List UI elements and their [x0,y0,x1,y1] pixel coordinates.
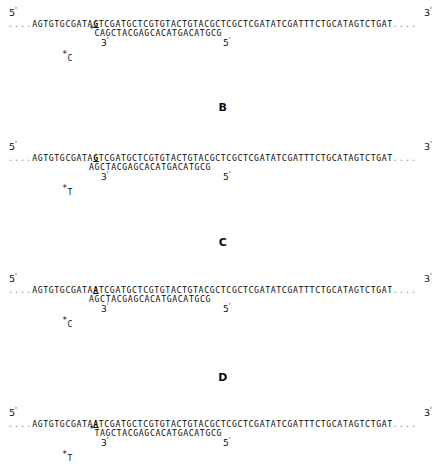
top-strand-sequence: ....AGTGTGCGATAGTCGATGCTCGTGTACTGTACGCTC… [8,153,417,163]
bottom-strand-three-prime-label: 3' [101,302,109,314]
labelled-free-nucleotide: *C [62,54,72,63]
bottom-strand-five-prime-label: 5' [223,170,231,182]
trailing-dots: .... [393,153,417,163]
prime-mark: ' [229,302,231,310]
bottom-strand-bases: CAGCTACGAGCACATGACATGCG [94,28,222,38]
bottom-strand-three-prime-label: 3' [101,170,109,182]
prime-mark: ' [15,272,17,280]
leading-dots: .... [8,285,32,295]
prime-mark: ' [430,140,432,148]
prime-mark: ' [229,170,231,178]
top-strand-sequence: ....AGTGTGCGATAATCGATGCTCGTGTACTGTACGCTC… [8,285,417,295]
trailing-dots: .... [393,19,417,29]
prime-mark: ' [430,6,432,14]
prime-mark: ' [15,406,17,414]
bottom-strand-five-prime-label: 5' [223,302,231,314]
free-nucleotide-base: C [67,320,72,329]
leading-dots: .... [8,19,32,29]
top-strand-prefix: AGTGTGCGATA [32,153,93,163]
five-prime-label-left: 5' [9,140,17,152]
free-nucleotide-base: C [67,54,72,63]
five-prime-label-left: 5' [9,272,17,284]
bottom-strand-bases: TAGCTACGAGCACATGACATGCG [94,428,222,438]
trailing-dots: .... [393,285,417,295]
labelled-free-nucleotide: *T [62,188,72,197]
panel-letter-c: C [0,236,446,249]
figure-root: { "figure": { "panel_letters": ["B", "C"… [0,0,446,472]
prime-mark: ' [107,36,109,44]
five-prime-label-left: 5' [9,406,17,418]
bottom-strand-sequence: *TAGCTACGAGCACATGACATGCG [89,428,222,438]
three-prime-label-right: 3' [424,406,432,418]
three-prime-label-right: 3' [424,6,432,18]
panel-letter-d: D [0,371,446,384]
bottom-strand-three-prime-label: 3' [101,36,109,48]
labelled-free-nucleotide: *T [62,454,72,463]
prime-mark: ' [107,302,109,310]
trailing-dots: .... [393,419,417,429]
bottom-strand-five-prime-label: 5' [223,436,231,448]
free-nucleotide-base: T [67,188,72,197]
top-strand-prefix: AGTGTGCGATA [32,19,93,29]
bottom-strand-five-prime-label: 5' [223,36,231,48]
prime-mark: ' [229,36,231,44]
bottom-strand-three-prime-label: 3' [101,436,109,448]
prime-mark: ' [229,436,231,444]
free-nucleotide-base: T [67,454,72,463]
prime-mark: ' [430,406,432,414]
leading-dots: .... [8,419,32,429]
top-strand-prefix: AGTGTGCGATA [32,285,93,295]
prime-mark: ' [430,272,432,280]
five-prime-label-left: 5' [9,6,17,18]
prime-mark: ' [107,436,109,444]
three-prime-label-right: 3' [424,272,432,284]
leading-dots: .... [8,153,32,163]
prime-mark: ' [15,140,17,148]
three-prime-label-right: 3' [424,140,432,152]
top-strand-prefix: AGTGTGCGATA [32,419,93,429]
bottom-strand-sequence: *CAGCTACGAGCACATGACATGCG [89,28,222,38]
prime-mark: ' [15,6,17,14]
labelled-free-nucleotide: *C [62,320,72,329]
panel-letter-b: B [0,101,446,114]
prime-mark: ' [107,170,109,178]
